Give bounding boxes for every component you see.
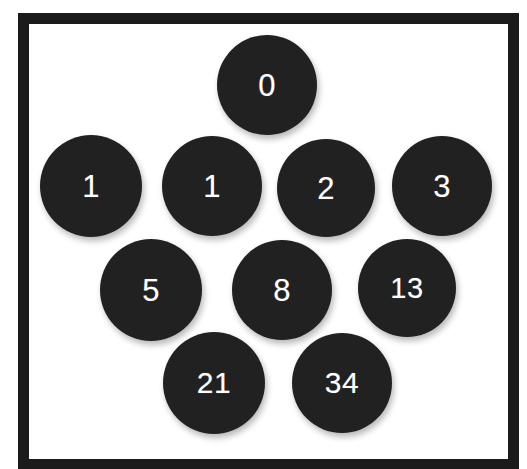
fibonacci-circle-34-r3c1[interactable]: 34 (292, 333, 392, 433)
circle-label: 21 (197, 368, 231, 398)
circle-label: 2 (317, 173, 335, 204)
fibonacci-circle-1-r1c1[interactable]: 1 (162, 136, 262, 236)
fibonacci-circle-21-r3c0[interactable]: 21 (163, 332, 265, 434)
fibonacci-circle-5-r2c0[interactable]: 5 (100, 239, 202, 341)
fibonacci-circle-3-r1c3[interactable]: 3 (392, 136, 492, 236)
circle-label: 1 (203, 171, 221, 202)
circle-label: 8 (273, 275, 291, 306)
circle-label: 1 (82, 171, 100, 202)
circle-label: 3 (433, 171, 451, 202)
circle-label: 34 (325, 368, 359, 398)
fibonacci-circle-2-r1c2[interactable]: 2 (277, 139, 375, 237)
circle-label: 5 (142, 275, 160, 306)
fibonacci-circle-1-r1c0[interactable]: 1 (40, 135, 142, 237)
circle-label: 0 (258, 70, 276, 101)
diagram-canvas: 0112358132134 (0, 0, 527, 469)
circle-label: 13 (390, 274, 423, 303)
fibonacci-circle-13-r2c2[interactable]: 13 (358, 239, 456, 337)
fibonacci-circle-8-r2c1[interactable]: 8 (232, 240, 332, 340)
fibonacci-circle-0-r0c0[interactable]: 0 (217, 35, 317, 135)
